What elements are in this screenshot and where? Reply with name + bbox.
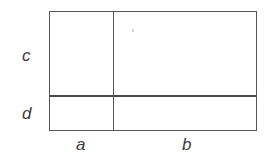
label-bottom-right-b: b	[182, 136, 191, 153]
label-bottom-left-a: a	[76, 136, 85, 153]
label-left-lower-d: d	[22, 105, 31, 122]
horizontal-divider-line	[49, 95, 257, 97]
vertical-divider-line	[113, 11, 114, 131]
scan-speck-artifact	[132, 29, 134, 32]
label-left-upper-c: c	[22, 47, 31, 64]
rectangle-outline	[49, 11, 257, 131]
figure-canvas: c d a b	[0, 0, 266, 164]
